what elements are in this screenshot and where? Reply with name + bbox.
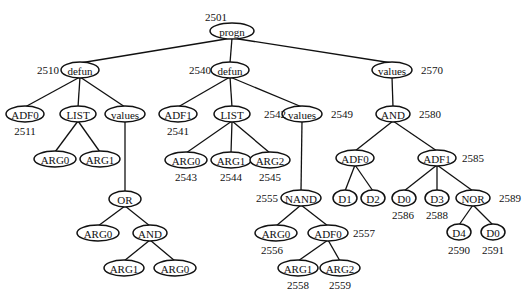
tree-node-defun: defun bbox=[61, 62, 99, 78]
tree-edge bbox=[276, 205, 301, 226]
tree-node-d0: D0 bbox=[481, 224, 505, 240]
tree-node-arg0: ARG0 bbox=[165, 152, 207, 168]
tree-node-d4: D4 bbox=[447, 224, 471, 240]
tree-node-list: LIST bbox=[60, 106, 96, 122]
tree-edge bbox=[232, 121, 270, 153]
node-id-label: 2542 bbox=[264, 108, 286, 120]
node-label: AND bbox=[138, 228, 162, 240]
tree-node-values: values bbox=[105, 106, 145, 122]
node-id-label: 2590 bbox=[448, 244, 471, 256]
node-label: D4 bbox=[452, 227, 466, 239]
tree-node-arg1: ARG1 bbox=[278, 260, 318, 276]
tree-edge bbox=[345, 165, 355, 191]
tree-nodes: progndefundefunvaluesADF0LISTvaluesARG0A… bbox=[6, 23, 505, 276]
node-id-label: 2540 bbox=[189, 64, 212, 76]
tree-node-adf0: ADF0 bbox=[308, 225, 348, 241]
tree-node-nor: NOR bbox=[456, 190, 490, 206]
node-label: D0 bbox=[486, 227, 500, 239]
node-id-label: 2556 bbox=[261, 244, 284, 256]
tree-node-d2: D2 bbox=[361, 190, 385, 206]
tree-edge bbox=[393, 121, 437, 151]
node-label: D2 bbox=[366, 193, 379, 205]
tree-edge bbox=[298, 240, 328, 261]
tree-node-d0: D0 bbox=[392, 190, 416, 206]
node-id-label: 2511 bbox=[14, 125, 36, 137]
tree-node-adf0: ADF0 bbox=[336, 150, 374, 166]
node-label: ARG0 bbox=[172, 155, 201, 167]
node-label: ADF0 bbox=[11, 109, 39, 121]
tree-node-adf1: ADF1 bbox=[418, 150, 456, 166]
tree-node-values: values bbox=[282, 106, 322, 122]
node-id-label: 2559 bbox=[329, 279, 352, 291]
tree-edge bbox=[80, 77, 125, 107]
tree-node-arg2: ARG2 bbox=[250, 152, 290, 168]
tree-node-arg0: ARG0 bbox=[255, 225, 297, 241]
tree-edge bbox=[25, 77, 80, 107]
node-label: ARG2 bbox=[326, 263, 355, 275]
tree-node-arg1: ARG1 bbox=[211, 152, 251, 168]
node-id-label: 2549 bbox=[331, 108, 354, 120]
node-label: ARG0 bbox=[262, 228, 291, 240]
tree-node-nand: NAND bbox=[281, 190, 321, 206]
tree-node-adf0: ADF0 bbox=[6, 106, 44, 122]
node-id-label: 2541 bbox=[167, 125, 189, 137]
node-label: ADF1 bbox=[164, 109, 192, 121]
node-label: D1 bbox=[338, 193, 351, 205]
tree-edge bbox=[78, 121, 100, 152]
node-label: ARG1 bbox=[217, 155, 246, 167]
node-label: AND bbox=[381, 109, 405, 121]
tree-node-arg2: ARG2 bbox=[320, 260, 360, 276]
node-id-label: 2555 bbox=[256, 192, 279, 204]
tree-node-defun: defun bbox=[211, 62, 249, 78]
node-id-label: 2501 bbox=[205, 11, 227, 23]
tree-node-values: values bbox=[372, 62, 412, 78]
node-id-label: 2570 bbox=[421, 64, 444, 76]
tree-node-arg0: ARG0 bbox=[77, 225, 119, 241]
node-label: D3 bbox=[430, 193, 444, 205]
node-label: defun bbox=[217, 65, 243, 77]
tree-node-and: AND bbox=[133, 225, 167, 241]
tree-node-arg1: ARG1 bbox=[80, 151, 120, 167]
tree-edge bbox=[230, 38, 232, 63]
tree-node-progn: progn bbox=[210, 23, 254, 39]
node-label: NOR bbox=[461, 193, 485, 205]
tree-node-list: LIST bbox=[214, 106, 250, 122]
node-id-label: 2586 bbox=[392, 209, 415, 221]
node-id-label: 2510 bbox=[37, 64, 60, 76]
tree-node-and: AND bbox=[376, 106, 410, 122]
node-id-label: 2580 bbox=[419, 108, 442, 120]
node-id-label: 2557 bbox=[353, 227, 376, 239]
tree-edge bbox=[230, 77, 232, 107]
node-id-label: 2543 bbox=[175, 171, 198, 183]
node-label: values bbox=[378, 65, 406, 77]
node-label: ARG0 bbox=[41, 154, 70, 166]
node-label: values bbox=[288, 109, 316, 121]
tree-node-or: OR bbox=[109, 191, 141, 207]
node-label: OR bbox=[117, 194, 133, 206]
node-label: ARG2 bbox=[256, 155, 285, 167]
node-label: LIST bbox=[220, 109, 244, 121]
tree-edge bbox=[125, 206, 150, 226]
tree-edge bbox=[178, 77, 230, 107]
node-id-label: 2544 bbox=[220, 171, 243, 183]
node-label: ARG1 bbox=[110, 263, 139, 275]
tree-edge bbox=[232, 38, 392, 63]
tree-edge bbox=[124, 240, 150, 261]
tree-edge bbox=[231, 121, 232, 153]
tree-edge bbox=[230, 77, 302, 107]
node-label: ADF1 bbox=[423, 153, 451, 165]
tree-node-adf1: ADF1 bbox=[159, 106, 197, 122]
tree-edge bbox=[473, 205, 493, 225]
tree-edge bbox=[301, 121, 302, 191]
tree-edge bbox=[150, 240, 175, 261]
node-label: ARG0 bbox=[84, 228, 113, 240]
tree-node-d1: D1 bbox=[333, 190, 357, 206]
tree-node-d3: D3 bbox=[425, 190, 449, 206]
node-label: ARG1 bbox=[284, 263, 313, 275]
tree-edge bbox=[328, 240, 340, 261]
tree-edge bbox=[186, 121, 232, 153]
node-id-label: 2591 bbox=[482, 244, 504, 256]
tree-edge bbox=[80, 38, 232, 63]
node-label: defun bbox=[67, 65, 93, 77]
tree-edge bbox=[437, 165, 473, 191]
